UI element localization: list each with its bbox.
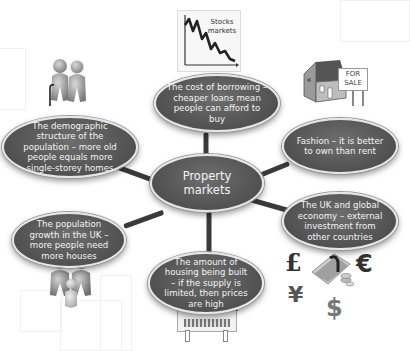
- sign-post-left: [185, 330, 190, 342]
- background-grid: [340, 0, 410, 42]
- building-strip: [184, 319, 230, 327]
- for-sale-sign: FOR SALE: [338, 68, 368, 91]
- euro-symbol: €: [356, 250, 373, 278]
- house-for-sale-icon: FOR SALE: [302, 58, 374, 108]
- background-grid: [0, 48, 26, 110]
- node-population-growth: The population growth in the UK – more p…: [12, 212, 126, 268]
- node-property-markets: Property markets: [150, 154, 264, 212]
- node-uk-global-economy: The UK and global economy – external inv…: [282, 192, 398, 250]
- node-fashion: Fashion – it is better to own than rent: [282, 118, 398, 174]
- connector-housing: [207, 211, 212, 257]
- node-cost-of-borrowing: The cost of borrowing – cheaper loans me…: [154, 74, 280, 132]
- stock-chart-icon: Stocks markets: [177, 10, 241, 72]
- sign-post-right: [223, 330, 228, 342]
- background-grid: [100, 275, 132, 351]
- node-amount-of-housing: The amount of housing being built – if t…: [148, 252, 264, 314]
- dollar-symbol: $: [326, 294, 343, 322]
- currency-money-icon: £ € ¥ $: [282, 248, 378, 338]
- connector-population: [123, 210, 164, 229]
- pound-symbol: £: [285, 248, 302, 277]
- stock-chart-label: Stocks markets: [206, 18, 238, 36]
- connector-economy: [249, 197, 289, 213]
- yen-symbol: ¥: [288, 282, 303, 307]
- elderly-couple-icon: [46, 56, 90, 108]
- node-demographic-structure: The demographic structure of the populat…: [2, 116, 138, 178]
